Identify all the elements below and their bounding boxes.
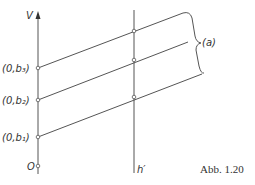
figure-caption: Abb. 1.20: [200, 163, 244, 175]
brace-label: (a): [202, 37, 216, 48]
point-b1: [36, 135, 40, 139]
h-point-2: [132, 58, 136, 62]
point-b2: [36, 98, 40, 102]
line-b1: [38, 74, 202, 137]
h-point-1: [132, 95, 136, 99]
point-b3: [36, 66, 40, 70]
label-b3: (0,b₃): [2, 63, 30, 74]
diagram-canvas: V h′ (a) (0,b₃) (0,b₂) (0,b₁) O Abb. 1.2…: [0, 0, 255, 185]
y-axis-label: V: [26, 10, 34, 21]
h-point-3: [132, 29, 136, 33]
origin-label: O: [27, 161, 35, 172]
arrow-up-icon: [36, 11, 41, 19]
point-origin: [36, 164, 40, 168]
line-b3: [38, 13, 183, 68]
h-prime-label: h′: [137, 164, 146, 175]
label-b1: (0,b₁): [2, 132, 30, 143]
line-b2: [38, 42, 188, 100]
label-b2: (0,b₂): [2, 95, 30, 106]
